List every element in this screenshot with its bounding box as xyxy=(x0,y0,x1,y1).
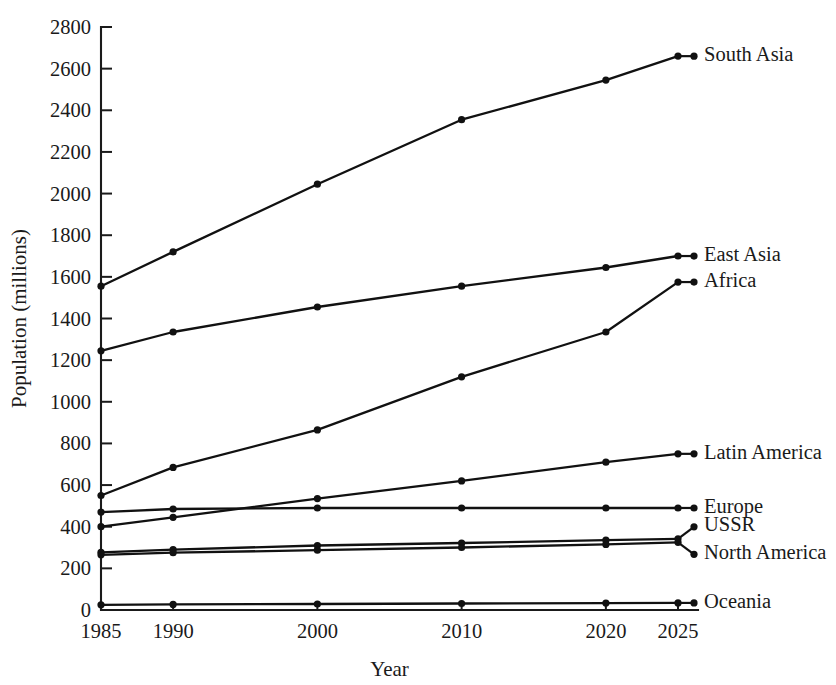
x-axis-tick-label: 2000 xyxy=(297,620,338,642)
data-point-marker xyxy=(602,328,609,335)
data-point-marker xyxy=(458,373,465,380)
chart-axes xyxy=(101,27,698,610)
axis-titles-group: YearPopulation (millions) xyxy=(7,229,409,681)
chart-canvas: 0200400600800100012001400160018002000220… xyxy=(0,0,836,685)
data-point-marker xyxy=(170,464,177,471)
series-label: South Asia xyxy=(704,43,793,65)
series-line xyxy=(101,603,678,605)
data-point-marker xyxy=(314,426,321,433)
data-point-marker xyxy=(314,547,321,554)
x-axis-tick-label: 2020 xyxy=(585,620,626,642)
data-point-marker xyxy=(97,347,104,354)
data-point-marker xyxy=(97,283,104,290)
y-axis-tick-label: 1400 xyxy=(50,308,91,330)
data-point-marker xyxy=(602,504,609,511)
series-label: Africa xyxy=(704,269,756,291)
y-axis-tick-label: 2400 xyxy=(50,99,91,121)
data-point-marker xyxy=(170,549,177,556)
data-point-marker xyxy=(314,495,321,502)
y-axis-tick-label: 2200 xyxy=(50,141,91,163)
data-point-marker xyxy=(602,459,609,466)
y-axis-tick-label: 0 xyxy=(81,599,91,621)
y-axis-tick-label: 800 xyxy=(60,432,91,454)
series-line xyxy=(101,56,678,286)
y-axis-tick-label: 600 xyxy=(60,474,91,496)
data-point-marker xyxy=(458,116,465,123)
y-axis-tick-label: 1200 xyxy=(50,349,91,371)
series-label-marker xyxy=(690,53,697,60)
data-point-marker xyxy=(458,504,465,511)
x-axis-tick-label: 2025 xyxy=(658,620,699,642)
series-label: North America xyxy=(704,541,826,563)
data-point-marker xyxy=(97,601,104,608)
series-line xyxy=(101,508,678,512)
data-point-marker xyxy=(458,477,465,484)
axis-spine xyxy=(101,27,698,610)
data-point-marker xyxy=(170,601,177,608)
data-point-marker xyxy=(170,505,177,512)
population-projection-chart: 0200400600800100012001400160018002000220… xyxy=(0,0,836,685)
x-axis-tick-label: 2010 xyxy=(441,620,482,642)
data-point-marker xyxy=(170,248,177,255)
y-axis-tick-label: 200 xyxy=(60,557,91,579)
data-point-marker xyxy=(97,523,104,530)
data-point-marker xyxy=(97,551,104,558)
data-point-marker xyxy=(314,181,321,188)
data-point-marker xyxy=(170,328,177,335)
data-point-marker xyxy=(170,514,177,521)
series-label: East Asia xyxy=(704,243,781,265)
series-label-marker xyxy=(690,551,697,558)
y-axis-title: Population (millions) xyxy=(7,229,31,408)
y-axis-tick-label: 1000 xyxy=(50,391,91,413)
data-point-marker xyxy=(458,600,465,607)
y-axis-tick-label: 400 xyxy=(60,516,91,538)
series-label-marker xyxy=(690,504,697,511)
series-label-marker xyxy=(690,523,697,530)
y-axis-tick-label: 2600 xyxy=(50,58,91,80)
data-point-marker xyxy=(314,504,321,511)
data-point-marker xyxy=(97,492,104,499)
y-axis-ticks: 0200400600800100012001400160018002000220… xyxy=(50,16,112,621)
data-point-marker xyxy=(314,303,321,310)
y-axis-tick-label: 1600 xyxy=(50,266,91,288)
x-axis-tick-label: 1990 xyxy=(153,620,194,642)
data-point-marker xyxy=(602,541,609,548)
series-label-marker xyxy=(690,599,697,606)
series-lines-group xyxy=(101,56,678,605)
x-axis-tick-label: 1985 xyxy=(81,620,122,642)
y-axis-tick-label: 2000 xyxy=(50,183,91,205)
x-axis-title: Year xyxy=(370,657,409,681)
series-label-marker xyxy=(690,252,697,259)
data-point-marker xyxy=(314,600,321,607)
y-axis-tick-label: 1800 xyxy=(50,224,91,246)
series-labels-group: South AsiaEast AsiaAfricaLatin AmericaEu… xyxy=(678,43,826,612)
series-label: Latin America xyxy=(704,441,822,463)
data-point-marker xyxy=(97,508,104,515)
data-point-marker xyxy=(458,544,465,551)
series-label: USSR xyxy=(704,513,756,535)
data-point-marker xyxy=(602,264,609,271)
data-point-marker xyxy=(602,600,609,607)
y-axis-tick-label: 2800 xyxy=(50,16,91,38)
series-label-marker xyxy=(690,450,697,457)
series-label-marker xyxy=(690,278,697,285)
data-point-marker xyxy=(602,77,609,84)
series-label: Oceania xyxy=(704,590,771,612)
data-point-marker xyxy=(458,283,465,290)
